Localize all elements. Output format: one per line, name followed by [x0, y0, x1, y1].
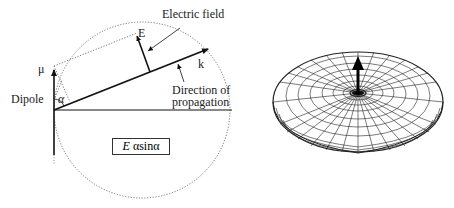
figure: Electric field E k μ Dipole α Direction … — [0, 0, 454, 208]
e-vector-label: E — [138, 27, 145, 39]
formula-rest: αsinα — [133, 139, 160, 154]
electric-field-label: Electric field — [162, 8, 224, 20]
formula-e: E — [123, 139, 130, 154]
dipole-label: Dipole — [11, 93, 44, 105]
k-vector-label: k — [198, 58, 204, 70]
e-vector-arrow — [137, 36, 150, 72]
projection-line — [54, 33, 137, 66]
propagation-leader — [178, 64, 184, 82]
alpha-label: α — [58, 93, 64, 105]
electric-field-leader — [148, 28, 180, 51]
mu-label: μ — [38, 63, 44, 75]
formula-box: E αsinα — [112, 138, 170, 155]
direction-label-line2: propagation — [172, 96, 229, 108]
